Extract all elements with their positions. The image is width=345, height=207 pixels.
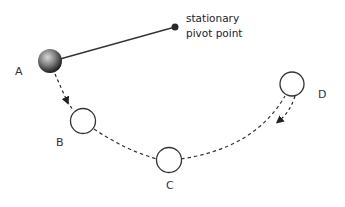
- label-b: B: [56, 137, 64, 148]
- label-a: A: [15, 66, 23, 77]
- arrow-a-to-b: [55, 74, 67, 101]
- arrow-d-down: [279, 96, 295, 121]
- path-c-to-d: [181, 96, 285, 159]
- path-b-to-c: [94, 129, 157, 159]
- pendulum-diagram: [0, 0, 345, 207]
- pivot-point: [172, 24, 179, 31]
- position-b: [71, 109, 96, 134]
- position-c: [157, 148, 182, 173]
- pivot-label-line1: stationary: [186, 11, 242, 26]
- path-a-to-b: [67, 101, 73, 110]
- position-d: [280, 72, 304, 96]
- label-c: C: [166, 180, 174, 191]
- pivot-label-line2: pivot point: [186, 26, 242, 41]
- ball-a: [38, 49, 62, 73]
- pivot-label: stationary pivot point: [186, 11, 242, 41]
- label-d: D: [318, 89, 326, 100]
- pendulum-string: [60, 27, 175, 59]
